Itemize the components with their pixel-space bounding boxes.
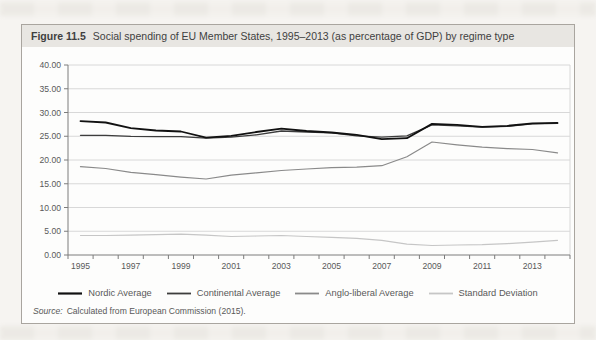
legend-line-swatch-nordic bbox=[58, 291, 82, 296]
x-tick-label: 2005 bbox=[322, 261, 341, 271]
legend-item-anglo-liberal-average: Anglo-liberal Average bbox=[295, 288, 413, 298]
source-note: Source:Calculated from European Commissi… bbox=[33, 306, 574, 316]
x-tick-label: 2003 bbox=[272, 261, 291, 271]
y-tick-label: 10.00 bbox=[39, 203, 61, 213]
x-tick-label: 2007 bbox=[372, 261, 391, 271]
x-tick-label: 1995 bbox=[71, 261, 90, 271]
legend-line-swatch-standard-deviation bbox=[429, 291, 453, 296]
x-tick-label: 1997 bbox=[121, 261, 140, 271]
y-tick-label: 35.00 bbox=[39, 84, 61, 94]
y-tick-label: 0.00 bbox=[44, 250, 61, 260]
legend-line-swatch-anglo-liberal bbox=[295, 291, 319, 296]
y-tick-label: 15.00 bbox=[39, 179, 61, 189]
source-text: Calculated from European Commission (201… bbox=[67, 306, 246, 316]
legend-line-swatch-continental bbox=[167, 291, 191, 296]
line-chart: 0.005.0010.0015.0020.0025.0030.0035.0040… bbox=[22, 51, 574, 283]
page-bleed-bottom bbox=[0, 326, 596, 340]
legend-label: Nordic Average bbox=[88, 288, 151, 298]
legend-label: Standard Deviation bbox=[459, 288, 538, 298]
x-tick-label: 2011 bbox=[473, 261, 492, 271]
y-tick-label: 30.00 bbox=[39, 108, 61, 118]
y-tick-label: 25.00 bbox=[39, 131, 61, 141]
x-tick-label: 2001 bbox=[222, 261, 241, 271]
legend-item-standard-deviation: Standard Deviation bbox=[429, 288, 538, 298]
chart-legend: Nordic Average Continental Average Anglo… bbox=[22, 288, 574, 298]
series-line-standard-deviation bbox=[81, 234, 558, 245]
y-tick-label: 40.00 bbox=[39, 60, 61, 70]
x-tick-label: 1999 bbox=[171, 261, 190, 271]
x-tick-label: 2013 bbox=[523, 261, 542, 271]
y-tick-label: 5.00 bbox=[44, 226, 61, 236]
x-tick-label: 2009 bbox=[422, 261, 441, 271]
page-bleed-top bbox=[0, 2, 596, 16]
figure-header: Figure 11.5 Social spending of EU Member… bbox=[22, 25, 574, 47]
legend-label: Continental Average bbox=[197, 288, 281, 298]
figure-label: Figure 11.5 bbox=[31, 30, 86, 42]
figure-box: Figure 11.5 Social spending of EU Member… bbox=[21, 24, 575, 324]
legend-item-nordic-average: Nordic Average bbox=[58, 288, 151, 298]
legend-item-continental-average: Continental Average bbox=[167, 288, 281, 298]
source-label: Source: bbox=[33, 306, 63, 316]
figure-title: Social spending of EU Member States, 199… bbox=[93, 30, 514, 42]
y-tick-label: 20.00 bbox=[39, 155, 61, 165]
legend-label: Anglo-liberal Average bbox=[325, 288, 413, 298]
